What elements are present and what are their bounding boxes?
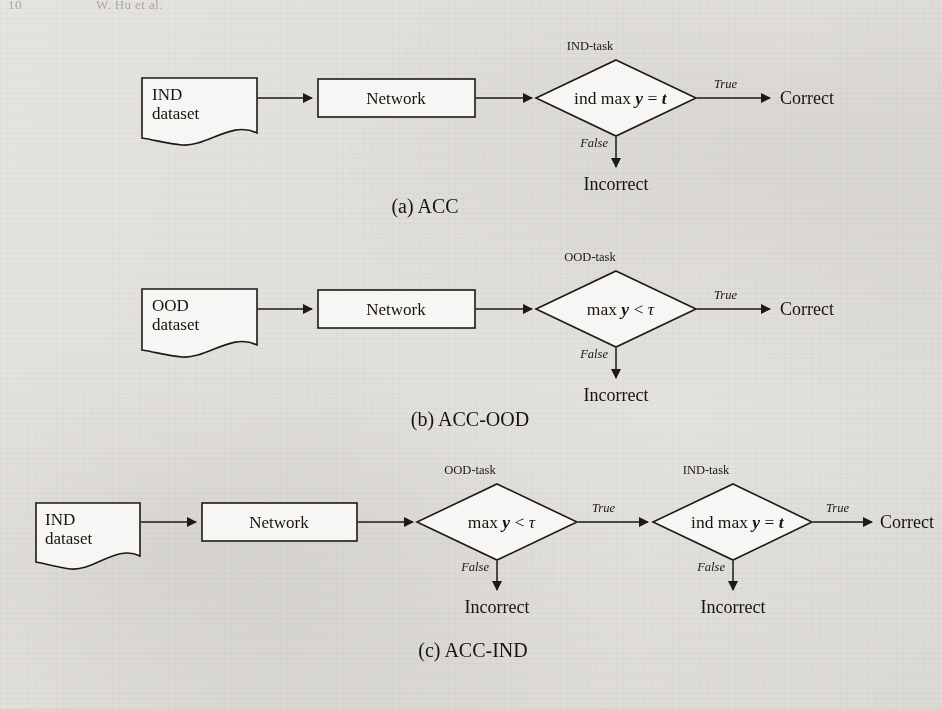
decision1-condition-c: max y < τ — [420, 512, 575, 532]
task-label-ood-c: OOD-task — [444, 463, 496, 477]
condition-variable-a: y — [633, 88, 643, 108]
condition2-operator-c: = — [760, 512, 779, 532]
edge-label-true-2-c: True — [826, 501, 849, 515]
node-network-c: Network — [202, 503, 357, 541]
condition1-operator-c: < — [510, 512, 529, 532]
condition-prefix-a: ind max — [574, 88, 635, 108]
decision-condition-a: ind max y = t — [526, 88, 706, 108]
figure-flowcharts: IND dataset Network ind max y = t IND-ta… — [0, 0, 942, 709]
condition1-rhs-c: τ — [529, 512, 536, 532]
ood-dataset-line1-b: OOD — [152, 296, 189, 315]
figure-stage: 10 W. Hu et al. IND dataset Network — [0, 0, 942, 709]
ind-dataset-line2-a: dataset — [152, 104, 199, 123]
condition2-variable-c: y — [750, 512, 760, 532]
terminal-incorrect-2-c: Incorrect — [701, 597, 766, 617]
decision-condition-b: max y < τ — [539, 299, 694, 319]
caption-c: (c) ACC-IND — [418, 639, 527, 662]
caption-b: (b) ACC-OOD — [411, 408, 529, 431]
subfigure-acc-ood: OOD dataset Network max y < τ OOD-task T… — [142, 250, 834, 431]
condition-prefix-b: max — [587, 299, 622, 319]
node-ood-dataset-b: OOD dataset — [142, 289, 257, 357]
edge-label-true-1-c: True — [592, 501, 615, 515]
terminal-correct-a: Correct — [780, 88, 834, 108]
edge-label-true-b: True — [714, 288, 737, 302]
node-ind-dataset-a: IND dataset — [142, 78, 257, 145]
node-ind-dataset-c: IND dataset — [36, 503, 140, 569]
decision2-condition-c: ind max y = t — [643, 512, 823, 532]
condition-operator-b: < — [629, 299, 648, 319]
edge-label-false-b: False — [579, 347, 608, 361]
condition1-prefix-c: max — [468, 512, 503, 532]
node-decision-ind-task-a: ind max y = t — [526, 60, 706, 136]
ind-dataset-line1-c: IND — [45, 510, 75, 529]
ood-dataset-line2-b: dataset — [152, 315, 199, 334]
network-label-c: Network — [249, 513, 309, 532]
ind-dataset-line2-c: dataset — [45, 529, 92, 548]
condition-operator-a: = — [643, 88, 662, 108]
task-label-ind-c: IND-task — [683, 463, 730, 477]
condition1-variable-c: y — [500, 512, 510, 532]
node-network-a: Network — [318, 79, 475, 117]
network-label-a: Network — [366, 89, 426, 108]
condition-variable-b: y — [619, 299, 629, 319]
condition2-rhs-c: t — [779, 512, 785, 532]
task-label-ood-b: OOD-task — [564, 250, 616, 264]
subfigure-acc-ind: IND dataset Network max y < τ OOD-task T… — [36, 463, 934, 662]
condition-rhs-b: τ — [648, 299, 655, 319]
ind-dataset-line1-a: IND — [152, 85, 182, 104]
caption-a: (a) ACC — [391, 195, 458, 218]
condition-rhs-a: t — [662, 88, 668, 108]
node-decision-ood-task-c: max y < τ — [417, 484, 577, 560]
edge-label-false-2-c: False — [696, 560, 725, 574]
task-label-ind-a: IND-task — [567, 39, 614, 53]
node-decision-ind-task-c: ind max y = t — [643, 484, 823, 560]
terminal-correct-c: Correct — [880, 512, 934, 532]
terminal-incorrect-1-c: Incorrect — [465, 597, 530, 617]
terminal-correct-b: Correct — [780, 299, 834, 319]
network-label-b: Network — [366, 300, 426, 319]
terminal-incorrect-a: Incorrect — [584, 174, 649, 194]
node-decision-ood-task-b: max y < τ — [536, 271, 696, 347]
edge-label-false-a: False — [579, 136, 608, 150]
subfigure-acc: IND dataset Network ind max y = t IND-ta… — [142, 39, 834, 218]
node-network-b: Network — [318, 290, 475, 328]
edge-label-false-1-c: False — [460, 560, 489, 574]
terminal-incorrect-b: Incorrect — [584, 385, 649, 405]
condition2-prefix-c: ind max — [691, 512, 752, 532]
edge-label-true-a: True — [714, 77, 737, 91]
